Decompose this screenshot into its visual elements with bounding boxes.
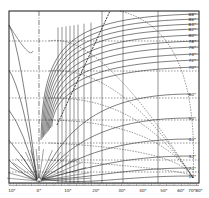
left-upper-curve [9, 25, 33, 53]
curve-88deg [41, 14, 199, 140]
left-curve [9, 70, 37, 180]
gridlines [9, 11, 199, 183]
dashed-arc [49, 98, 193, 178]
radial-ray [21, 155, 39, 181]
x-axis-label: 10° [64, 188, 71, 193]
right-label-lower: 10° [189, 174, 196, 179]
x-axis-label: 50° [160, 188, 167, 193]
right-label-lower: 50° [189, 116, 196, 121]
right-label-upper: 70° [189, 65, 196, 70]
curve-30deg [42, 156, 191, 179]
x-axis-label: 10° [8, 188, 15, 193]
frame-border [9, 11, 199, 183]
right-label-upper: 82° [189, 27, 196, 32]
x-axis-label: 20° [92, 188, 99, 193]
x-axis-label: 80° [195, 188, 202, 193]
x-axis-label: 0° [37, 188, 42, 193]
curve-60deg [42, 94, 191, 179]
right-label-upper: 72° [189, 58, 196, 63]
curve-72deg [51, 60, 199, 128]
right-label-upper: 74° [189, 52, 196, 57]
dashed-arc [49, 120, 193, 178]
dashed-arc-outer [120, 11, 194, 178]
right-label-lower: 60° [189, 92, 196, 97]
nomogram-chart: 10°0°10°20°30°40°50°60°70°80°88°86°84°82… [0, 0, 209, 198]
x-axis-label: 60° [177, 188, 184, 193]
right-label-upper: 78° [189, 39, 196, 44]
radial-ray [39, 155, 69, 181]
right-label-upper: 76° [189, 45, 196, 50]
right-label-lower: 30° [189, 154, 196, 159]
curve-80deg [46, 35, 199, 134]
dashed-arc [49, 143, 193, 178]
x-axis-label: 40° [139, 188, 146, 193]
x-axis-label: 30° [118, 188, 125, 193]
right-label-upper: 80° [189, 33, 196, 38]
right-label-lower: 40° [189, 137, 196, 142]
curves [9, 11, 199, 181]
right-label-lower: 20° [189, 166, 196, 171]
